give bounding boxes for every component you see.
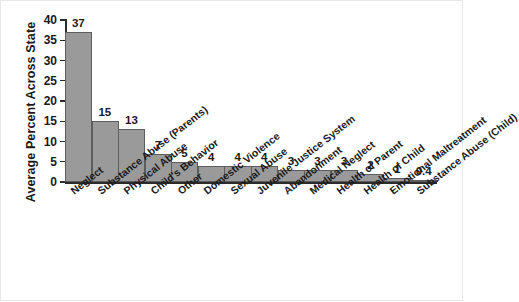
bar-value-label: 37 [59, 18, 98, 30]
bar-value-label: 13 [112, 115, 151, 127]
y-tick-label: 20 [44, 95, 57, 107]
y-tick-label: 35 [44, 34, 57, 46]
y-tick-label: 10 [44, 136, 57, 148]
y-tick-label: 0 [50, 176, 57, 188]
y-tick-label: 40 [44, 14, 57, 26]
y-tick-label: 15 [44, 115, 57, 127]
y-tick-label: 5 [50, 156, 57, 168]
y-axis-title: Average Percent Across State [24, 19, 38, 205]
y-tick-label: 25 [44, 75, 57, 87]
y-tick-label: 30 [44, 55, 57, 67]
